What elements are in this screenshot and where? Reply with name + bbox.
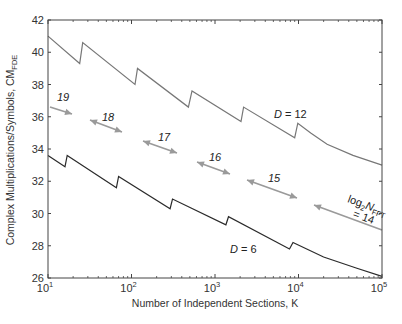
labels: Number of Independent Sections, K Comple… [4,55,389,309]
y-tick-label: 42 [32,14,44,26]
arrow-label-18: 18 [102,111,115,123]
series-label-d6: D = 6 [230,243,257,255]
x-tick-label: 101 [37,280,53,294]
series-label-d12: D = 12 [274,108,307,120]
arrow-label-19: 19 [57,91,69,103]
arrows [50,107,382,230]
y-tick-label: 28 [32,240,44,252]
arrow-label-16: 16 [209,151,222,163]
y-tick-label: 40 [32,46,44,58]
arrowhead-icon [197,161,205,167]
arrowhead-icon [90,119,98,125]
x-tick-label: 105 [371,280,387,294]
arrowhead-icon [169,148,177,154]
x-tick-label: 104 [287,280,303,294]
y-tick-label: 38 [32,79,44,91]
x-axis-title: Number of Independent Sections, K [132,297,298,309]
curve-d6 [48,155,382,276]
arrowhead-icon [64,109,72,115]
x-tick-label: 103 [204,280,220,294]
y-tick-label: 30 [32,208,44,220]
arrowhead-icon [143,140,151,146]
x-tick-label: 102 [120,280,136,294]
arrowhead-icon [314,204,322,210]
arrow-label-17: 17 [158,131,171,143]
y-axis-title-subscript: FDE [10,55,19,70]
y-tick-label: 34 [32,143,44,155]
arrowhead-icon [222,169,230,175]
arrowhead-icon [247,179,255,185]
y-axis-title: Complex Multiplications/Symbols, CMFDE [4,55,19,246]
axes-box [48,20,382,278]
curve-d12 [48,36,382,165]
y-tick-label: 32 [32,175,44,187]
y-axis-title-main: Complex Multiplications/Symbols, CM [4,70,16,246]
arrow-label-15: 15 [268,172,281,184]
y-tick-label: 36 [32,111,44,123]
arrowhead-icon [114,127,122,133]
arrowhead-icon [289,193,297,199]
chart: 262830323436384042101102103104105 Number… [0,0,402,324]
